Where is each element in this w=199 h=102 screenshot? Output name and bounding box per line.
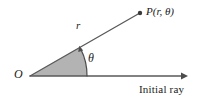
initial-ray-arrowhead	[181, 73, 188, 80]
point-p-label: P(r, θ)	[146, 6, 174, 17]
initial-ray-label: Initial ray	[139, 84, 184, 95]
polar-coordinates-figure: O r θ P(r, θ) Initial ray	[0, 0, 199, 102]
radius-label: r	[76, 20, 80, 31]
point-p-marker	[138, 11, 142, 15]
origin-label: O	[14, 68, 23, 80]
angle-label: θ	[88, 52, 94, 64]
